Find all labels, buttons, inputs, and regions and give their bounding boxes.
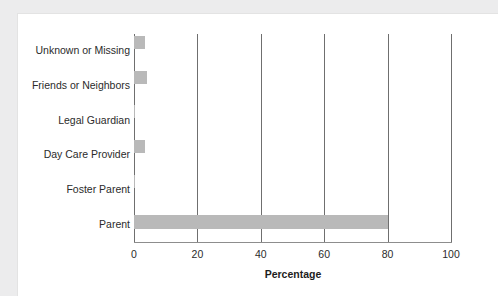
category-label: Day Care Provider (0, 148, 130, 160)
category-axis-line (134, 242, 452, 243)
tick-label: 80 (382, 248, 394, 260)
category-label: Foster Parent (0, 183, 130, 195)
bar (134, 140, 145, 153)
bar-row (134, 173, 451, 208)
category-label: Unknown or Missing (0, 44, 130, 56)
bar (134, 36, 145, 49)
bar-row (134, 103, 451, 138)
bar-row (134, 207, 451, 242)
bar (134, 71, 147, 84)
bar-row (134, 138, 451, 173)
figure-panel: Unknown or MissingFriends or NeighborsLe… (17, 13, 498, 296)
category-label: Legal Guardian (0, 114, 130, 126)
gridline-100 (451, 34, 452, 242)
plot-area (134, 34, 451, 242)
tick-label: 0 (131, 248, 137, 260)
bar-row (134, 69, 451, 104)
bar (134, 105, 135, 118)
value-axis-title: Percentage (134, 268, 452, 280)
category-label: Friends or Neighbors (0, 79, 130, 91)
tick-label: 100 (442, 248, 460, 260)
category-axis-labels: Unknown or MissingFriends or NeighborsLe… (0, 34, 130, 242)
tick-label: 20 (192, 248, 204, 260)
tick-label: 60 (318, 248, 330, 260)
tick-label: 40 (255, 248, 267, 260)
bar (134, 215, 388, 229)
bar (134, 175, 135, 188)
category-label: Parent (0, 218, 130, 230)
bar-row (134, 34, 451, 69)
